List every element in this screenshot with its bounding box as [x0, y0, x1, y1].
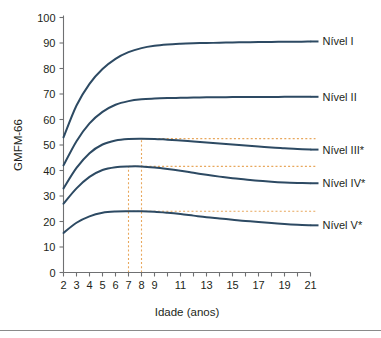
- y-tick-label-70: 70: [43, 88, 55, 100]
- y-axis-title: GMFM-66: [12, 119, 24, 171]
- x-tick-label-11: 11: [175, 279, 186, 291]
- legend-label-4: Nível V*: [323, 219, 363, 231]
- x-axis-tick-labels: 23456789111315171921: [60, 279, 316, 291]
- x-tick-label-4: 4: [86, 279, 92, 291]
- curve-series-3: [64, 166, 311, 203]
- horizontal-guide-lines: [129, 139, 316, 212]
- legend-label-0: Nível I: [323, 35, 354, 47]
- x-tick-label-13: 13: [200, 279, 212, 291]
- x-axis-ticks: [64, 273, 311, 277]
- gmfm-66-growth-curves-figure: 0102030405060708090100 23456789111315171…: [0, 0, 381, 338]
- legend-label-2: Nível III*: [323, 144, 365, 156]
- x-tick-label-5: 5: [99, 279, 105, 291]
- x-tick-label-6: 6: [112, 279, 118, 291]
- y-axis-tick-labels: 0102030405060708090100: [37, 12, 55, 279]
- y-tick-label-50: 50: [43, 139, 55, 151]
- y-tick-label-40: 40: [43, 165, 55, 177]
- curve-series-1: [64, 97, 311, 166]
- x-tick-label-17: 17: [252, 279, 264, 291]
- x-tick-label-3: 3: [73, 279, 79, 291]
- chart-canvas: 0102030405060708090100 23456789111315171…: [0, 0, 381, 338]
- y-axis: 0102030405060708090100: [37, 12, 63, 279]
- curve-series-0: [64, 41, 311, 137]
- x-tick-label-15: 15: [226, 279, 238, 291]
- y-tick-label-80: 80: [43, 63, 55, 75]
- legend-label-1: Nível II: [323, 91, 357, 103]
- y-tick-label-30: 30: [43, 190, 55, 202]
- y-tick-label-10: 10: [43, 241, 55, 253]
- y-tick-label-100: 100: [37, 12, 55, 24]
- y-axis-ticks: [60, 18, 64, 273]
- y-tick-label-0: 0: [49, 267, 55, 279]
- x-tick-label-8: 8: [138, 279, 144, 291]
- x-tick-label-7: 7: [125, 279, 131, 291]
- curve-series-4: [64, 211, 311, 233]
- x-tick-label-2: 2: [60, 279, 66, 291]
- data-series-curves: [64, 41, 311, 233]
- x-tick-label-9: 9: [151, 279, 157, 291]
- x-axis-title: Idade (anos): [155, 306, 220, 318]
- vertical-guide-lines: [129, 139, 142, 273]
- x-axis: 23456789111315171921: [60, 273, 316, 291]
- x-tick-label-21: 21: [304, 279, 316, 291]
- y-tick-label-90: 90: [43, 37, 55, 49]
- y-tick-label-60: 60: [43, 114, 55, 126]
- y-tick-label-20: 20: [43, 216, 55, 228]
- x-tick-label-19: 19: [278, 279, 290, 291]
- legend-label-3: Nível IV*: [323, 177, 367, 189]
- series-legend: Nível INível IINível III*Nível IV*Nível …: [311, 35, 367, 231]
